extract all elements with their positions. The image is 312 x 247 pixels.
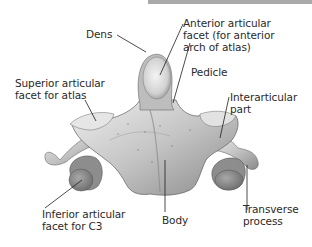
label-transverse-process: Transverse process	[243, 203, 299, 227]
label-dens: Dens	[86, 28, 112, 40]
label-inferior-articular-facet: Inferior articular facet for C3	[42, 208, 125, 232]
label-body: Body	[162, 214, 188, 226]
label-pedicle: Pedicle	[191, 66, 227, 78]
label-interarticular-part: Interarticular part	[230, 91, 297, 115]
label-superior-articular-facet: Superior articular facet for atlas	[15, 77, 105, 101]
dens	[138, 54, 174, 110]
label-anterior-articular-facet: Anterior articular facet (for anterior a…	[183, 17, 274, 53]
right-inferior-facet	[212, 158, 245, 190]
